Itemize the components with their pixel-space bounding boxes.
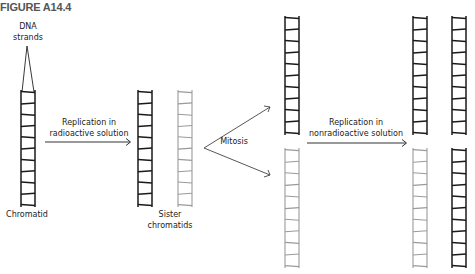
replication-nonradioactive-label: Replication in nonradioactive solution [306, 118, 406, 139]
base-pair-rung [413, 150, 427, 151]
base-pair-rung [285, 219, 299, 220]
ladder-mitosis-top [285, 16, 299, 135]
figure-canvas: FIGURE A14.4 DNA strands Chromatid [0, 0, 475, 274]
base-pair-rung [21, 205, 35, 206]
base-pair-rung [285, 133, 299, 134]
base-pair-rung [285, 29, 299, 30]
base-pair-rung [452, 29, 466, 30]
base-pair-rung [452, 231, 466, 232]
base-pair-rung [285, 173, 299, 174]
base-pair-rung [285, 98, 299, 99]
base-pair-rung [413, 64, 427, 65]
base-pair-rung [285, 242, 299, 243]
dna-strands-pointer [22, 46, 34, 92]
replication1-line2: radioactive solution [47, 129, 131, 140]
base-pair-rung [452, 87, 466, 88]
sister-line1: Sister [140, 210, 200, 221]
base-pair-rung [178, 205, 192, 206]
base-pair-rung [21, 182, 35, 183]
base-pair-rung [285, 18, 299, 19]
base-pair-rung [285, 231, 299, 232]
ladder-final-top-right [452, 16, 466, 135]
base-pair-rung [452, 266, 466, 267]
base-pair-rung [413, 121, 427, 122]
base-pair-rung [413, 266, 427, 267]
ladder-final-bottom-left [413, 148, 427, 268]
base-pair-rung [178, 92, 192, 93]
base-pair-rung [413, 173, 427, 174]
base-pair-rung [138, 114, 152, 115]
base-pair-rung [138, 137, 152, 138]
base-pair-rung [285, 87, 299, 88]
base-pair-rung [285, 64, 299, 65]
base-pair-rung [21, 114, 35, 115]
base-pair-rung [413, 87, 427, 88]
base-pair-rung [413, 231, 427, 232]
base-pair-rung [178, 193, 192, 194]
replication-arrow-nonradioactive [307, 140, 407, 147]
base-pair-rung [21, 171, 35, 172]
dna-label-line1: DNA [9, 22, 47, 33]
base-pair-rung [138, 92, 152, 93]
replication-radioactive-label: Replication in radioactive solution [47, 118, 131, 139]
base-pair-rung [452, 196, 466, 197]
base-pair-rung [452, 98, 466, 99]
ladder-sister-right [178, 90, 192, 207]
base-pair-rung [413, 52, 427, 53]
ladder-final-top-left [413, 16, 427, 135]
base-pair-rung [452, 173, 466, 174]
replication2-line2: nonradioactive solution [306, 129, 406, 140]
base-pair-rung [138, 205, 152, 206]
base-pair-rung [413, 133, 427, 134]
base-pair-rung [138, 193, 152, 194]
base-pair-rung [285, 75, 299, 76]
base-pair-rung [413, 219, 427, 220]
base-pair-rung [452, 110, 466, 111]
base-pair-rung [452, 254, 466, 255]
base-pair-rung [452, 161, 466, 162]
base-pair-rung [21, 92, 35, 93]
base-pair-rung [178, 126, 192, 127]
base-pair-rung [138, 126, 152, 127]
base-pair-rung [413, 242, 427, 243]
base-pair-rung [285, 41, 299, 42]
base-pair-rung [413, 184, 427, 185]
ladder-sister-left [138, 90, 152, 207]
ladder-chromatid [21, 90, 35, 207]
base-pair-rung [413, 254, 427, 255]
base-pair-rung [413, 29, 427, 30]
base-pair-rung [21, 103, 35, 104]
ladder-mitosis-bottom [285, 148, 299, 268]
base-pair-rung [138, 159, 152, 160]
base-pair-rung [452, 184, 466, 185]
base-pair-rung [178, 137, 192, 138]
base-pair-rung [178, 103, 192, 104]
base-pair-rung [178, 171, 192, 172]
base-pair-rung [452, 133, 466, 134]
base-pair-rung [452, 150, 466, 151]
replication1-line1: Replication in [47, 118, 131, 129]
base-pair-rung [21, 148, 35, 149]
base-pair-rung [452, 75, 466, 76]
base-pair-rung [413, 41, 427, 42]
base-pair-rung [285, 52, 299, 53]
base-pair-rung [413, 196, 427, 197]
dna-strands-label: DNA strands [9, 22, 47, 43]
base-pair-rung [285, 161, 299, 162]
base-pair-rung [452, 121, 466, 122]
replication-arrow-radioactive [45, 139, 131, 146]
base-pair-rung [413, 98, 427, 99]
base-pair-rung [452, 208, 466, 209]
base-pair-rung [285, 150, 299, 151]
base-pair-rung [452, 52, 466, 53]
base-pair-rung [285, 208, 299, 209]
base-pair-rung [21, 159, 35, 160]
base-pair-rung [413, 75, 427, 76]
base-pair-rung [413, 18, 427, 19]
base-pair-rung [452, 64, 466, 65]
base-pair-rung [285, 196, 299, 197]
chromatid-label: Chromatid [3, 210, 51, 221]
base-pair-rung [452, 41, 466, 42]
base-pair-rung [21, 137, 35, 138]
mitosis-label: Mitosis [218, 137, 250, 148]
